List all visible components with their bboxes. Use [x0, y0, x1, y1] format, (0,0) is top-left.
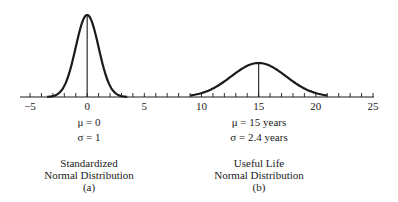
panel-b-mu: μ = 15 years — [219, 116, 299, 129]
panel-b-caption-line3: (b) — [199, 181, 319, 193]
panel-a-sigma: σ = 1 — [59, 131, 119, 144]
svg-text:10: 10 — [196, 100, 208, 112]
svg-text:20: 20 — [310, 100, 322, 112]
panel-b-caption-line1: Useful Life — [199, 157, 319, 169]
svg-text:−5: −5 — [24, 100, 36, 112]
svg-text:25: 25 — [368, 100, 380, 112]
panel-a-caption-line3: (a) — [29, 181, 149, 193]
svg-text:15: 15 — [253, 100, 265, 112]
panel-a-mu: μ = 0 — [59, 116, 119, 129]
panel-a-caption-line2: Normal Distribution — [29, 169, 149, 181]
panel-b-caption-line2: Normal Distribution — [199, 169, 319, 181]
panel-a-caption-line1: Standardized — [29, 157, 149, 169]
distribution-curves — [47, 15, 327, 97]
svg-text:5: 5 — [142, 100, 148, 112]
tick-labels: −50510152025 — [24, 100, 379, 112]
svg-text:0: 0 — [84, 100, 90, 112]
panel-b-sigma: σ = 2.4 years — [219, 131, 299, 144]
